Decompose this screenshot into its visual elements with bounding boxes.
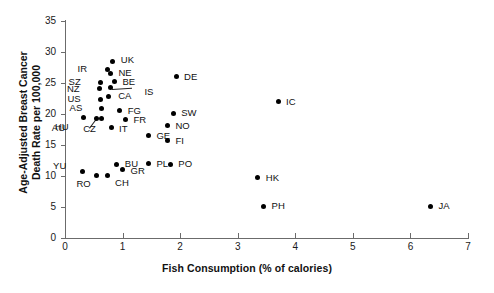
data-point-label: UK — [121, 55, 134, 65]
data-point-label: CH — [115, 178, 129, 188]
x-tick — [410, 233, 411, 238]
data-point-label: GR — [131, 166, 145, 176]
data-point-label: PH — [272, 201, 285, 211]
data-point — [146, 133, 151, 138]
data-point — [109, 125, 114, 130]
x-axis-line — [65, 238, 469, 239]
data-point-label: FR — [133, 115, 146, 125]
y-axis-title: Age-Adjusted Breast Cancer Death Rate pe… — [17, 0, 42, 248]
data-point — [165, 123, 170, 128]
data-point — [108, 71, 113, 76]
data-point — [165, 138, 170, 143]
data-point-label: AU — [52, 123, 65, 133]
data-point-label: NZ — [67, 84, 80, 94]
data-point-label: IR — [78, 64, 88, 74]
data-point — [174, 74, 179, 79]
data-point — [99, 106, 104, 111]
data-point-label: DE — [184, 72, 197, 82]
data-point — [168, 162, 173, 167]
data-point-label: AS — [70, 103, 83, 113]
data-point-label: IT — [119, 124, 127, 134]
y-tick — [61, 83, 66, 84]
x-tick — [468, 233, 469, 238]
data-point-label: CA — [118, 91, 131, 101]
x-tick — [295, 233, 296, 238]
data-point — [276, 99, 281, 104]
data-point-label: YU — [53, 161, 66, 171]
data-point-label: IC — [286, 97, 296, 107]
data-point-label: CZ — [83, 124, 96, 134]
data-point — [80, 169, 85, 174]
x-tick-label: 1 — [113, 241, 133, 252]
x-tick — [180, 233, 181, 238]
x-tick-label: 0 — [55, 241, 75, 252]
y-tick — [61, 238, 66, 239]
data-point-label: PL — [156, 159, 168, 169]
data-point — [98, 80, 103, 85]
data-point-label: PO — [178, 159, 192, 169]
data-point — [105, 173, 110, 178]
data-point — [146, 161, 151, 166]
x-tick — [238, 233, 239, 238]
data-point — [117, 108, 122, 113]
data-point — [81, 115, 86, 120]
x-tick-label: 5 — [343, 241, 363, 252]
x-tick — [123, 233, 124, 238]
data-point — [261, 204, 266, 209]
data-point — [112, 79, 117, 84]
data-point-label: HK — [266, 173, 279, 183]
data-point-label: RO — [76, 179, 90, 189]
data-point-label: BE — [123, 77, 136, 87]
data-point — [171, 111, 176, 116]
x-tick-label: 7 — [458, 241, 478, 252]
data-point — [120, 167, 125, 172]
data-point — [114, 162, 119, 167]
y-tick — [61, 21, 66, 22]
data-point — [123, 117, 128, 122]
data-point — [98, 97, 103, 102]
data-point — [94, 173, 99, 178]
y-axis-title-line1: Age-Adjusted Breast Cancer — [17, 51, 29, 193]
x-tick-label: 6 — [400, 241, 420, 252]
y-tick — [61, 52, 66, 53]
data-point — [97, 86, 102, 91]
data-point — [255, 175, 260, 180]
y-axis-title-line2: Death Rate per 100,000 — [29, 65, 41, 180]
data-point — [99, 116, 104, 121]
data-point — [110, 59, 115, 64]
x-axis-title: Fish Consumption (% of calories) — [0, 262, 494, 274]
x-tick-label: 4 — [285, 241, 305, 252]
y-tick — [61, 207, 66, 208]
y-tick — [61, 176, 66, 177]
data-point-label: SW — [181, 108, 196, 118]
data-point-label: IS — [144, 87, 153, 97]
data-point-label: NO — [175, 121, 189, 131]
x-tick — [353, 233, 354, 238]
x-tick-label: 3 — [228, 241, 248, 252]
y-tick — [61, 114, 66, 115]
scatter-chart: 0123456705101520253035 UKIRNEBESZNZISCAU… — [0, 0, 494, 293]
data-point — [428, 204, 433, 209]
data-point-label: JA — [439, 201, 450, 211]
y-tick — [61, 145, 66, 146]
x-tick-label: 2 — [170, 241, 190, 252]
data-point — [106, 94, 111, 99]
data-point-label: FI — [175, 136, 183, 146]
